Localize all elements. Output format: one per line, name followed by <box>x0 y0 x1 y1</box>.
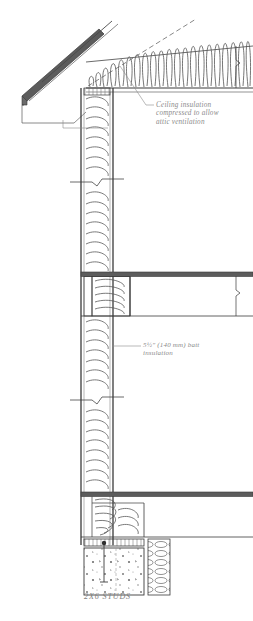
batt-insulation-annotation: 5½" (140 mm) batt insulation <box>143 341 243 358</box>
ceiling-insulation-annotation: Ceiling insulation compressed to allow a… <box>156 101 252 126</box>
studs-label: 2X6 STUDS <box>84 592 194 601</box>
wall-section-drawing <box>0 0 253 621</box>
sill-plate <box>84 539 144 546</box>
foundation-insulation-strip <box>148 539 170 595</box>
foundation-wall <box>84 548 144 595</box>
